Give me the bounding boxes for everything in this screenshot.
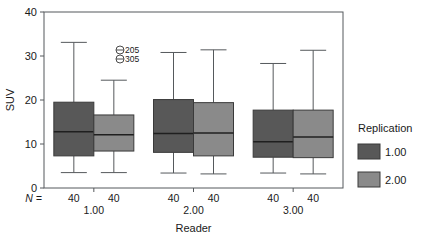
legend-swatch bbox=[358, 172, 380, 187]
x-group-label: 2.00 bbox=[183, 204, 204, 216]
box-plot-figure: 010203040SUV205305N =4040404040401.002.0… bbox=[0, 0, 436, 250]
n-row-prefix: N = bbox=[25, 192, 42, 204]
outlier-label: 305 bbox=[125, 54, 139, 64]
box-iqr bbox=[54, 102, 94, 156]
box-iqr bbox=[253, 110, 293, 157]
y-tick-label: 10 bbox=[25, 138, 37, 150]
x-group-label: 3.00 bbox=[283, 204, 304, 216]
box-iqr bbox=[293, 110, 333, 158]
y-axis-title: SUV bbox=[4, 88, 16, 111]
x-group-label: 1.00 bbox=[84, 204, 105, 216]
y-tick-label: 40 bbox=[25, 6, 37, 18]
box-iqr bbox=[194, 103, 234, 156]
n-value: 40 bbox=[108, 192, 120, 204]
plot-canvas: 010203040SUV205305N =4040404040401.002.0… bbox=[0, 0, 436, 250]
x-axis-title: Reader bbox=[175, 222, 211, 234]
n-value: 40 bbox=[68, 192, 80, 204]
box-iqr bbox=[94, 115, 134, 151]
n-value: 40 bbox=[168, 192, 180, 204]
y-tick-label: 30 bbox=[25, 50, 37, 62]
legend-label: 2.00 bbox=[385, 174, 406, 186]
box-iqr bbox=[154, 100, 194, 153]
n-value: 40 bbox=[208, 192, 220, 204]
legend-label: 1.00 bbox=[385, 146, 406, 158]
n-value: 40 bbox=[307, 192, 319, 204]
y-tick-label: 20 bbox=[25, 94, 37, 106]
n-value: 40 bbox=[267, 192, 279, 204]
legend-title: Replication bbox=[358, 122, 412, 134]
legend-swatch bbox=[358, 144, 380, 159]
